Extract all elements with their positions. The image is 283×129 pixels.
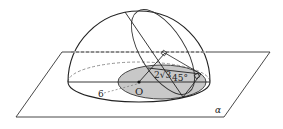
label-radius: 6 <box>98 89 104 99</box>
center-point-o <box>137 80 140 83</box>
hemisphere-diagram: O 6 2√3 45° α <box>0 0 283 129</box>
label-angle: 45° <box>172 73 188 83</box>
right-angle-mark-top <box>161 50 167 56</box>
label-distance: 2√3 <box>154 70 171 80</box>
label-plane-alpha: α <box>215 105 221 115</box>
label-center-o: O <box>135 86 143 97</box>
